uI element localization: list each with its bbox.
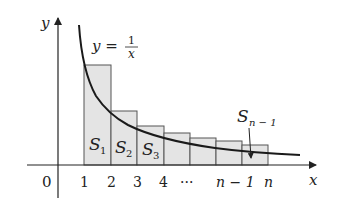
rectangle-s6 [216, 141, 242, 165]
svg-text:S: S [89, 134, 101, 154]
svg-text:1: 1 [80, 174, 89, 190]
svg-text:4: 4 [159, 174, 168, 190]
svg-text:3: 3 [133, 174, 142, 190]
svg-text:1: 1 [100, 145, 106, 156]
x-axis-label: x [309, 171, 318, 189]
svg-text:S: S [237, 106, 249, 126]
svg-text:2: 2 [126, 148, 132, 159]
svg-text:x: x [128, 47, 135, 61]
svg-text:S: S [142, 139, 154, 159]
rectangle-s4 [164, 133, 190, 165]
callout-label-sn-1: S n − 1 [237, 106, 277, 128]
x-tick-labels: 1 2 3 4 ··· n − 1 n [80, 174, 273, 190]
origin-label: 0 [42, 173, 52, 191]
svg-text:S: S [115, 137, 127, 157]
svg-text:n − 1: n − 1 [216, 174, 255, 190]
svg-text:n − 1: n − 1 [249, 117, 277, 128]
rectangle-s5 [190, 138, 216, 165]
svg-text:1: 1 [128, 34, 135, 47]
curve-label: y = 1 x [91, 34, 138, 61]
svg-text:n: n [264, 174, 273, 190]
svg-text:···: ··· [180, 174, 193, 190]
y-axis-label: y [40, 14, 50, 32]
svg-text:3: 3 [153, 150, 159, 161]
svg-text:y =: y = [91, 37, 118, 55]
diagram-canvas: y x 0 y = 1 x 1 2 3 4 ··· n − 1 n S 1 S … [0, 0, 340, 206]
rectangle-sn-1 [242, 145, 268, 165]
svg-text:2: 2 [107, 174, 116, 190]
